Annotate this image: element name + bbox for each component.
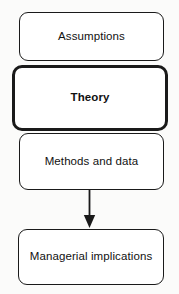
node-assumptions-label: Assumptions: [58, 30, 125, 43]
node-methods-label: Methods and data: [45, 155, 139, 168]
node-managerial-implications[interactable]: Managerial implications: [18, 229, 164, 285]
arrow-head-icon: [84, 215, 95, 228]
flowchart-diagram: Assumptions Theory Methods and data Mana…: [0, 0, 179, 294]
node-methods[interactable]: Methods and data: [19, 133, 164, 190]
node-managerial-implications-label: Managerial implications: [30, 250, 152, 263]
node-theory-label: Theory: [71, 91, 110, 104]
node-assumptions[interactable]: Assumptions: [19, 12, 164, 61]
node-theory[interactable]: Theory: [12, 65, 168, 131]
